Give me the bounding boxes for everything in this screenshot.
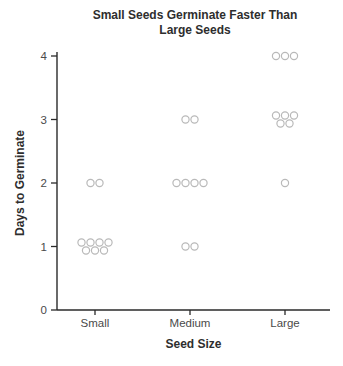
data-point-circle	[82, 247, 89, 254]
y-tick-label: 4	[41, 50, 48, 62]
x-tick-label: Medium	[170, 317, 211, 329]
data-point-circle	[191, 243, 198, 250]
germination-dot-plot: Small Seeds Germinate Faster Than Large …	[0, 0, 343, 366]
data-point-circle	[191, 179, 198, 186]
data-point-circle	[105, 239, 112, 246]
y-tick-label: 3	[41, 114, 47, 126]
data-point-circle	[182, 243, 189, 250]
data-point-circle	[78, 239, 85, 246]
data-point-circle	[91, 247, 98, 254]
x-axis-label: Seed Size	[57, 337, 330, 351]
data-point-circle	[281, 52, 288, 59]
data-point-circle	[272, 112, 279, 119]
data-points	[78, 52, 298, 254]
x-tick-label: Small	[81, 317, 110, 329]
y-ticks: 01234	[41, 50, 57, 316]
data-point-circle	[272, 52, 279, 59]
data-point-circle	[290, 52, 297, 59]
data-point-circle	[87, 239, 94, 246]
data-point-circle	[100, 247, 107, 254]
data-point-circle	[191, 116, 198, 123]
data-point-circle	[182, 116, 189, 123]
data-point-circle	[286, 120, 293, 127]
y-tick-label: 2	[41, 177, 47, 189]
data-point-circle	[290, 112, 297, 119]
data-point-circle	[96, 239, 103, 246]
data-point-circle	[182, 179, 189, 186]
data-point-circle	[281, 179, 288, 186]
x-ticks: SmallMediumLarge	[81, 310, 300, 329]
x-tick-label: Large	[270, 317, 299, 329]
data-point-circle	[173, 179, 180, 186]
plot-area: 01234 SmallMediumLarge	[0, 0, 343, 366]
y-tick-label: 0	[41, 304, 47, 316]
data-point-circle	[87, 179, 94, 186]
data-point-circle	[200, 179, 207, 186]
data-point-circle	[281, 112, 288, 119]
data-point-circle	[277, 120, 284, 127]
y-tick-label: 1	[41, 241, 47, 253]
data-point-circle	[96, 179, 103, 186]
